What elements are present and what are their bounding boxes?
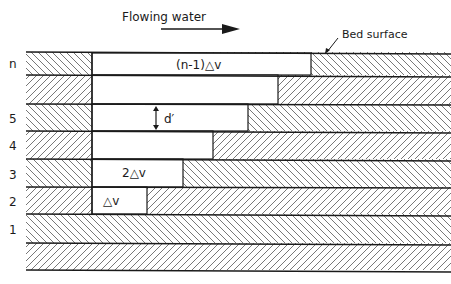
layer-label-5: 5 (9, 112, 17, 126)
layer-label-1: 1 (9, 223, 17, 237)
layer-label-2: 2 (9, 195, 17, 209)
stratum-1-upper (26, 214, 451, 243)
layer-label-4: 4 (9, 139, 17, 153)
stratum-4 (26, 131, 451, 159)
thickness-label: d′ (164, 112, 175, 126)
block-label-n-minus-1-dv: (n-1)△v (176, 58, 221, 72)
flow-label: Flowing water (122, 10, 206, 24)
bed-surface-pointer-icon (325, 38, 338, 54)
stratum-1-lower (26, 243, 451, 270)
bed-layer-diagram: Flowing water Bed surface n 5 4 3 2 1 (n… (0, 0, 451, 284)
stratum-3 (26, 159, 451, 187)
block-label-2-dv: 2△v (122, 166, 146, 180)
block-2 (92, 187, 147, 214)
bed-surface-label: Bed surface (342, 28, 408, 41)
layer-label-3: 3 (9, 168, 17, 182)
block-label-dv: △v (103, 194, 119, 208)
block-n-minus-1 (92, 75, 278, 104)
stratum-2 (26, 187, 451, 214)
flow-arrow-icon (161, 24, 240, 34)
layer-label-n: n (9, 57, 17, 71)
block-4 (92, 131, 213, 159)
